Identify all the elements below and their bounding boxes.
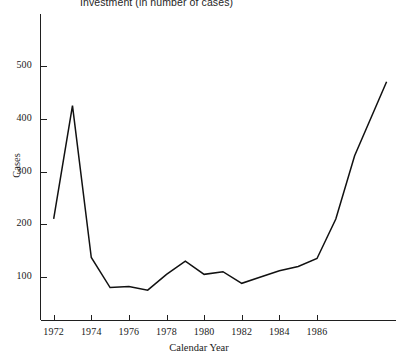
x-tick-label: 1974	[71, 326, 111, 337]
y-tick-label: 100	[0, 270, 32, 281]
y-tick-label: 500	[0, 59, 32, 70]
x-tick-label: 1976	[109, 326, 149, 337]
cases-data-line	[54, 82, 387, 290]
x-tick-label: 1978	[147, 326, 187, 337]
line-chart: Investment (in number of cases) 10020030…	[0, 0, 398, 360]
x-axis-title: Calendar Year	[0, 342, 398, 353]
x-tick-label: 1982	[222, 326, 262, 337]
y-tick-label: 200	[0, 217, 32, 228]
y-tick-marks	[41, 67, 47, 278]
plot-area	[0, 0, 398, 360]
y-tick-label: 400	[0, 112, 32, 123]
y-axis-title: Cases	[11, 136, 22, 196]
x-tick-label: 1972	[34, 326, 74, 337]
x-tick-label: 1984	[259, 326, 299, 337]
x-tick-marks	[54, 315, 317, 321]
x-tick-label: 1986	[297, 326, 337, 337]
x-tick-label: 1980	[184, 326, 224, 337]
